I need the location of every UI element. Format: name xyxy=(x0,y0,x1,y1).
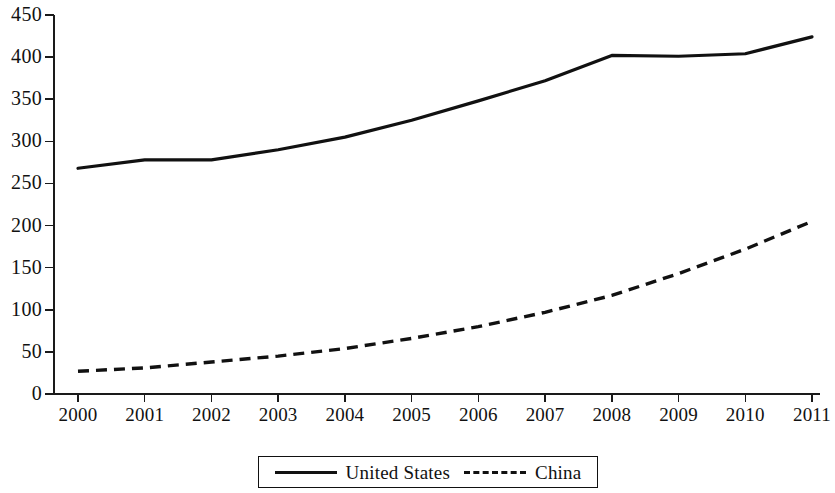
legend-label-united-states: United States xyxy=(346,463,450,482)
legend-item-china: China xyxy=(464,463,581,482)
plot-area xyxy=(0,0,828,440)
series-line-united-states xyxy=(78,37,812,168)
chart-legend: United States China xyxy=(258,456,598,488)
series-line-china xyxy=(78,221,812,371)
legend-swatch-dashed-line-icon xyxy=(464,471,526,474)
legend-label-china: China xyxy=(535,463,581,482)
legend-swatch-solid-line-icon xyxy=(275,471,337,474)
legend-item-united-states: United States xyxy=(275,463,450,482)
